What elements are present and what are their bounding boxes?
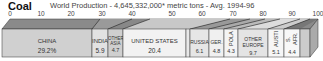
- segment-label: OTHER EUROPE: [242, 36, 263, 48]
- segment-australia: AUSTL. 5.1: [268, 31, 284, 56]
- segment-russia: RUSSIA 6.1: [190, 39, 209, 55]
- segment-label: S. AFR.: [285, 31, 299, 47]
- segment-germany: GER. 4.8: [209, 39, 224, 55]
- segment-india: INDIA 5.9: [92, 38, 108, 54]
- segment-value: 4.3: [224, 48, 238, 55]
- segment-south-africa: S. AFR. 4.4: [284, 31, 300, 56]
- segment-label: RUSSIA: [190, 39, 209, 45]
- segment-value: 4.7: [108, 48, 123, 53]
- segment-label: INDIA: [92, 38, 108, 44]
- segment-label: UNITED STATES: [131, 38, 177, 44]
- segment-value: 20.4: [123, 47, 186, 54]
- segment-poland: POLAND 4.3: [224, 31, 238, 55]
- segment-label: AUSTL.: [273, 31, 280, 47]
- segment-value: 5.9: [92, 47, 108, 54]
- segment-other-europe: OTHER EUROPE 9.7: [238, 36, 268, 56]
- segment-value: 4.8: [209, 48, 224, 55]
- segment-value: 5.1: [268, 49, 284, 56]
- segment-value: 29.2%: [2, 47, 92, 54]
- segment-value: 6.1: [190, 48, 209, 55]
- segment-label: CHINA: [38, 38, 57, 44]
- segment-china: CHINA 29.2%: [2, 38, 92, 54]
- segment-value: 4.4: [284, 49, 300, 56]
- segment-label: GER.: [210, 39, 222, 45]
- segment-united-states: UNITED STATES 20.4: [123, 38, 186, 54]
- segment-value: 9.7: [238, 50, 268, 56]
- segment-other-asia: OTHER ASIA 4.7: [108, 36, 123, 53]
- segment-label: POLAND: [228, 31, 235, 46]
- segment-label: OTHER ASIA: [108, 36, 123, 46]
